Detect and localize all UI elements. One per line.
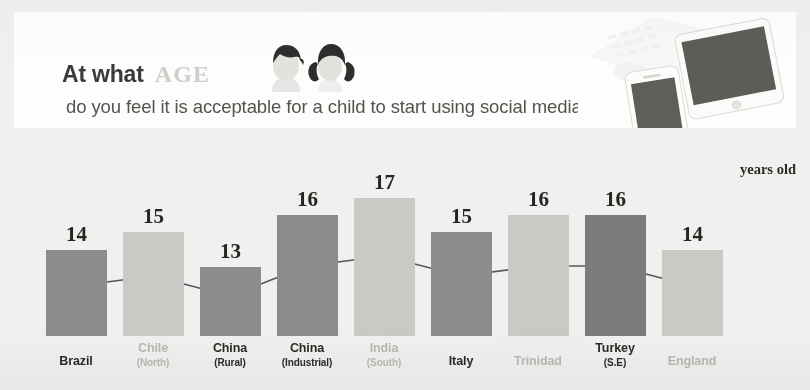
- avatars-svg: [262, 38, 368, 96]
- category-name: Chile: [138, 341, 168, 355]
- bars-container: 14Brazil15Chile(North)13China(Rural)16Ch…: [34, 134, 746, 390]
- boy-avatar-icon: [272, 45, 304, 92]
- bar-value-label: 15: [119, 206, 188, 227]
- bar-value-label: 15: [427, 206, 496, 227]
- title-prefix: At what: [62, 61, 144, 87]
- header-card: At whatAGE do you feel it is acceptable …: [14, 12, 796, 128]
- avatars-group: [262, 38, 368, 96]
- bar-value-label: 14: [658, 224, 727, 245]
- unit-annotation: years old: [740, 162, 802, 178]
- category-name: China: [213, 341, 247, 355]
- page-subtitle: do you feel it is acceptable for a child…: [66, 98, 592, 117]
- bar-group: 17India(South): [350, 134, 418, 390]
- bar: [46, 250, 107, 336]
- bar: [508, 215, 569, 336]
- bar-group: 16Trinidad: [504, 134, 572, 390]
- title-emphasis: AGE: [155, 61, 211, 87]
- category-label: Chile(North): [113, 342, 193, 368]
- category-sublabel: (South): [344, 358, 424, 369]
- bar-group: 16Turkey(S.E): [581, 134, 649, 390]
- bar-group: 13China(Rural): [196, 134, 264, 390]
- bar-value-label: 17: [350, 172, 419, 193]
- category-name: Turkey: [595, 341, 634, 355]
- bar-value-label: 16: [581, 189, 650, 210]
- bar: [431, 232, 492, 336]
- category-name: Brazil: [59, 354, 92, 368]
- category-sublabel: (Rural): [190, 358, 270, 369]
- category-name: England: [668, 354, 717, 368]
- devices-photo-svg: [578, 12, 796, 128]
- bar-value-label: 16: [273, 189, 342, 210]
- category-name: Italy: [449, 354, 474, 368]
- category-label: Italy: [421, 355, 501, 368]
- devices-photo: [578, 12, 796, 128]
- category-label: India(South): [344, 342, 424, 368]
- category-label: China(Industrial): [267, 342, 347, 368]
- bar: [585, 215, 646, 336]
- bar-value-label: 16: [504, 189, 573, 210]
- bar: [354, 198, 415, 336]
- girl-avatar-icon: [308, 44, 354, 92]
- category-name: Trinidad: [514, 354, 562, 368]
- bar-group: 16China(Industrial): [273, 134, 341, 390]
- category-sublabel: (Industrial): [267, 358, 347, 369]
- bar: [123, 232, 184, 336]
- bar-value-label: 14: [42, 224, 111, 245]
- infographic-root: At whatAGE do you feel it is acceptable …: [0, 0, 810, 390]
- bar: [277, 215, 338, 336]
- bar-group: 15Italy: [427, 134, 495, 390]
- category-label: Trinidad: [498, 355, 578, 368]
- category-label: China(Rural): [190, 342, 270, 368]
- bar: [662, 250, 723, 336]
- category-label: England: [652, 355, 732, 368]
- category-name: India: [370, 341, 399, 355]
- category-label: Turkey(S.E): [575, 342, 655, 368]
- bar: [200, 267, 261, 336]
- chart-area: 14Brazil15Chile(North)13China(Rural)16Ch…: [0, 128, 810, 390]
- bar-group: 14England: [658, 134, 726, 390]
- page-title: At whatAGE: [62, 62, 210, 86]
- bar-group: 14Brazil: [42, 134, 110, 390]
- bar-value-label: 13: [196, 241, 265, 262]
- bar-group: 15Chile(North): [119, 134, 187, 390]
- category-sublabel: (S.E): [575, 358, 655, 369]
- category-sublabel: (North): [113, 358, 193, 369]
- category-name: China: [290, 341, 324, 355]
- category-label: Brazil: [36, 355, 116, 368]
